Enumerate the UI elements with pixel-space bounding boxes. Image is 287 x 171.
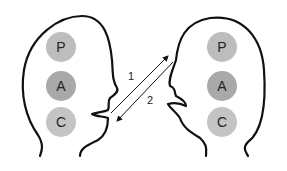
right-child-label: C [217, 114, 227, 130]
left-child-label: C [56, 114, 66, 130]
right-adult-label: A [217, 78, 227, 94]
left-ego-states: P A C [46, 32, 76, 137]
arrow-1-label: 1 [128, 70, 134, 82]
arrow-1-icon [111, 56, 168, 113]
left-parent-label: P [56, 39, 65, 55]
left-adult-label: A [56, 78, 66, 94]
right-parent-label: P [217, 39, 226, 55]
right-ego-states: P A C [207, 32, 237, 137]
transaction-diagram: P A C P A C 1 2 [0, 0, 287, 171]
arrow-2-icon [117, 62, 173, 121]
arrow-2-label: 2 [147, 94, 153, 106]
